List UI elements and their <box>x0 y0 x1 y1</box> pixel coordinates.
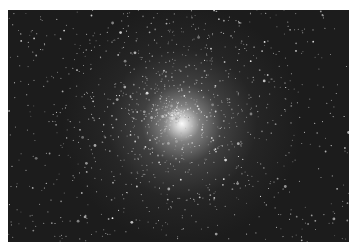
star-cluster-photo <box>8 10 349 242</box>
star-field <box>8 10 349 242</box>
